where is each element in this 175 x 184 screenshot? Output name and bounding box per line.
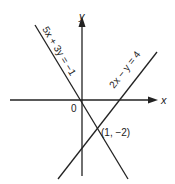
origin-label: 0 — [71, 103, 77, 114]
y-axis-label: y — [78, 10, 86, 22]
x-axis-label: x — [160, 94, 167, 106]
intersection-label: (1, −2) — [101, 127, 130, 138]
x-axis-arrow-icon — [148, 97, 158, 104]
graph-canvas: y x 0 5x + 3y = −1 2x − y = 4 (1, −2) — [0, 0, 175, 184]
coordinate-plane: y x 0 5x + 3y = −1 2x − y = 4 (1, −2) — [0, 0, 175, 184]
line2-equation-label: 2x − y = 4 — [107, 49, 143, 91]
line1-equation-label: 5x + 3y = −1 — [40, 24, 78, 77]
